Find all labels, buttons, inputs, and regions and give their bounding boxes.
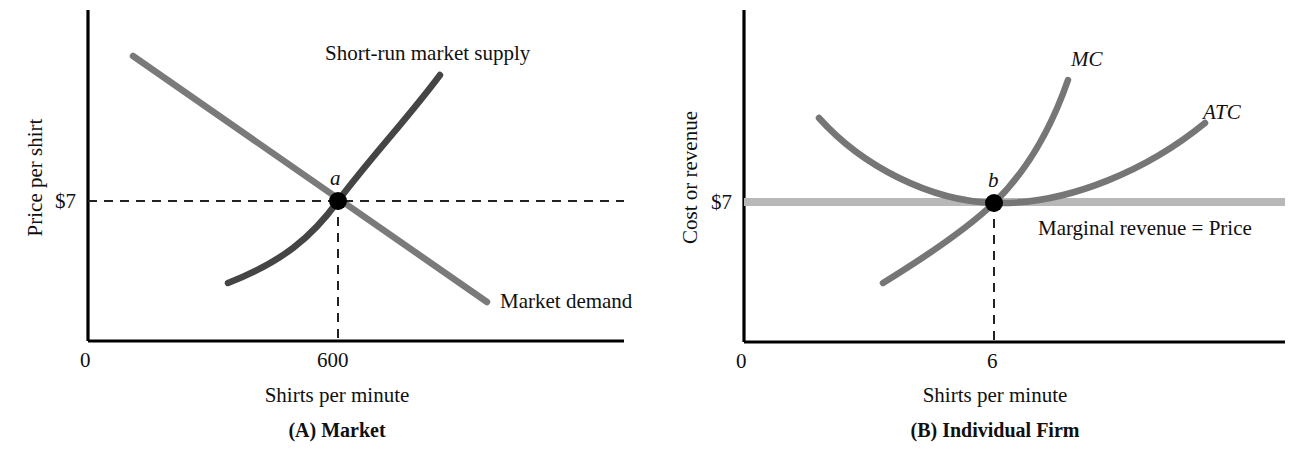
panel-a-price-tick-label: $7 xyxy=(55,189,76,214)
economics-figure: Price per shirt $7 0 600 a Short-run mar… xyxy=(0,0,1296,461)
panel-a-equilibrium-dot xyxy=(329,192,347,210)
panel-b-x-axis-title: Shirts per minute xyxy=(880,383,1110,408)
panel-b-origin-label: 0 xyxy=(736,349,747,374)
panel-b-graph xyxy=(744,10,1285,342)
market-demand-curve xyxy=(133,56,487,302)
atc-label: ATC xyxy=(1203,100,1241,125)
panel-a-x-axis-title: Shirts per minute xyxy=(222,383,452,408)
atc-curve xyxy=(819,118,1205,203)
panel-a-origin-label: 0 xyxy=(80,348,91,373)
panel-a-caption: (A) Market xyxy=(222,419,452,442)
panel-b-price-tick-label: $7 xyxy=(711,190,732,215)
panel-a-quantity-tick-label: 600 xyxy=(317,348,349,373)
mc-label: MC xyxy=(1071,47,1103,72)
panel-b-y-axis-title: Cost or revenue xyxy=(678,88,703,268)
panel-b-quantity-tick-label: 6 xyxy=(987,349,998,374)
market-demand-label: Market demand xyxy=(500,289,632,314)
panel-b-equilibrium-dot xyxy=(985,194,1003,212)
panel-a-equilibrium-point-label: a xyxy=(330,166,341,191)
marginal-revenue-label: Marginal revenue = Price xyxy=(1038,216,1252,241)
panel-b-equilibrium-point-label: b xyxy=(988,168,999,193)
panel-a-y-axis-title: Price per shirt xyxy=(23,98,48,258)
short-run-market-supply-label: Short-run market supply xyxy=(325,41,530,66)
panel-b-caption: (B) Individual Firm xyxy=(865,419,1125,442)
